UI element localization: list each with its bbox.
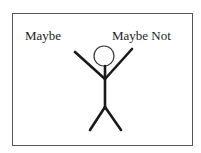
stick-figure-right-leg: [105, 107, 121, 130]
stick-figure-head: [94, 46, 114, 66]
stick-figure-left-leg: [90, 107, 105, 130]
stick-figure: [0, 0, 201, 153]
